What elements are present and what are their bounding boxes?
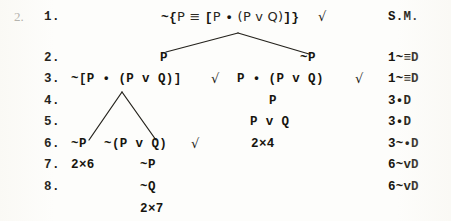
right-branch-line-3: P • (P v Q) — [237, 73, 324, 86]
right-branch-line-4: P — [269, 95, 277, 108]
root-formula-line-1: ~{P ≡ [P • (P v Q)]} — [161, 10, 299, 24]
proof-tree-canvas: 2. 1. ~{P ≡ [P • (P v Q)]} √ S.M. 2. P ~… — [0, 0, 451, 221]
branch-lines-group — [0, 0, 451, 221]
root-rbrace: } — [291, 10, 299, 25]
root-p2: P — [213, 9, 221, 24]
root-dot-operator: • — [225, 10, 233, 25]
right-branch-line-5: P v Q — [250, 116, 290, 129]
justification-line-8: 6~vD — [388, 181, 419, 194]
line-number-1: 1. — [44, 11, 60, 24]
root-p1: P — [177, 9, 185, 24]
left-branch-line-3: ~[P • (P v Q)] — [71, 73, 182, 86]
branch-line-sub-left — [89, 92, 122, 140]
line-number-6: 6. — [44, 138, 60, 151]
root-p3: P — [243, 9, 251, 24]
justification-line-6: 3~•D — [388, 138, 419, 151]
left-checkmark-line-6: √ — [191, 137, 199, 150]
justification-line-7: 6~vD — [388, 159, 419, 172]
left-branch-line-2: P — [160, 52, 168, 65]
root-tilde-brace: ~{ — [161, 10, 177, 25]
justification-line-3: 1~≡D — [388, 73, 419, 86]
line-number-5: 5. — [44, 116, 60, 129]
justification-line-5: 3•D — [388, 116, 411, 129]
right-branch-line-2: ~P — [300, 52, 316, 65]
justification-line-2: 1~≡D — [388, 52, 419, 65]
root-lbracket: [ — [205, 10, 213, 25]
closure-marker-line-7: 2×6 — [71, 159, 95, 172]
right-checkmark-line-3: √ — [355, 72, 363, 85]
root-q: Q — [268, 9, 278, 24]
left-branch-b-line-6: ~(P v Q) — [104, 138, 167, 151]
root-vee-operator: v — [255, 9, 263, 24]
line-number-4: 4. — [44, 95, 60, 108]
branch-line-root-right — [238, 33, 309, 54]
branch-line-sub-right — [122, 92, 156, 140]
mid-formula-line-8: ~Q — [140, 181, 156, 194]
left-checkmark-line-3: √ — [211, 72, 219, 85]
line-number-7: 7. — [44, 159, 60, 172]
checkmark-line-1: √ — [318, 10, 326, 23]
branch-line-root-left — [166, 33, 238, 52]
final-closure-marker: 2×7 — [140, 203, 164, 216]
justification-line-4: 3•D — [388, 95, 411, 108]
line-number-3: 3. — [44, 73, 60, 86]
line-number-8: 8. — [44, 181, 60, 194]
line-number-2: 2. — [44, 52, 60, 65]
closure-marker-line-6: 2×4 — [251, 138, 275, 151]
root-equiv-icon: ≡ — [189, 9, 200, 24]
justification-line-1: S.M. — [388, 11, 419, 24]
problem-number: 2. — [14, 10, 24, 23]
left-branch-a-line-6: ~P — [71, 138, 87, 151]
mid-formula-line-7: ~P — [140, 159, 156, 172]
